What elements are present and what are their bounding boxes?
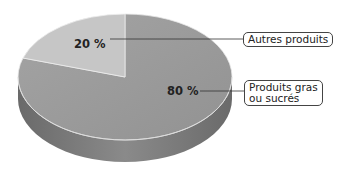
legend-autres-produits: Autres produits bbox=[243, 32, 333, 47]
legend-autres-label: Autres produits bbox=[248, 33, 328, 45]
legend-produits-gras: Produits gras ou sucrés bbox=[244, 80, 323, 106]
label-80-percent: 80 % bbox=[167, 84, 199, 98]
legend-gras-line2: ou sucrés bbox=[249, 93, 318, 104]
label-20-percent: 20 % bbox=[74, 37, 106, 51]
